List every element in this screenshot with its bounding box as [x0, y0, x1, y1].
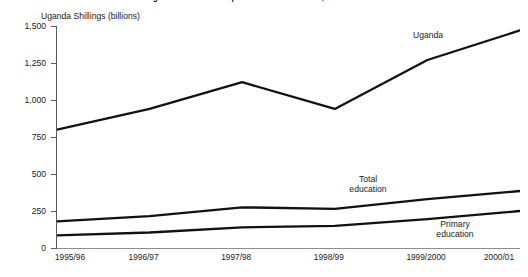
x-axis-line [56, 248, 520, 249]
x-tick-label-1996-97: 1996/97 [129, 252, 159, 262]
series-label-primary-education-line1: Primary [422, 219, 488, 229]
x-tick-label-2000-01: 2000/01 [484, 252, 514, 262]
series-label-uganda: Uganda [413, 30, 443, 40]
y-tick-label-0: 0 [2, 243, 46, 253]
series-label-total-education-line1: Total [338, 174, 398, 184]
y-tick-label-250: 250 [2, 206, 46, 216]
plot-area [57, 26, 520, 248]
y-tick-label-1,000: 1,000 [2, 95, 46, 105]
y-tick-0 [51, 248, 57, 249]
series-label-total-education-line2: education [338, 184, 398, 194]
y-axis-unit-label: Uganda Shillings (billions) [41, 11, 140, 21]
series-label-primary-education: Primary education [422, 219, 488, 239]
series-label-primary-education-line2: education [422, 229, 488, 239]
chart-title: Budget estimates for expenditure in educ… [0, 0, 528, 2]
y-tick-label-500: 500 [2, 169, 46, 179]
series-lines [57, 26, 520, 248]
x-tick-label-1995-96: 1995/96 [55, 252, 85, 262]
chart-container: Budget estimates for expenditure in educ… [0, 0, 528, 277]
x-tick-label-1998-99: 1998/99 [314, 252, 344, 262]
line-uganda [57, 30, 520, 129]
x-tick-label-1999-2000: 1999/2000 [406, 252, 445, 262]
x-tick-label-1997-98: 1997/98 [221, 252, 251, 262]
y-tick-label-1,500: 1,500 [2, 21, 46, 31]
series-label-total-education: Total education [338, 174, 398, 194]
y-tick-label-750: 750 [2, 132, 46, 142]
y-tick-label-1,250: 1,250 [2, 58, 46, 68]
